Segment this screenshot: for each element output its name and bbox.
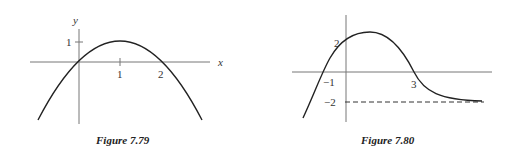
figure-7-80: 2 −1 3 −2 Figure 7.80 [292,15,492,146]
y-axis-label: y [72,14,78,26]
figures-canvas: y x 1 1 2 Figure 7.79 2 −1 3 −2 Figure 7… [0,0,518,150]
x-tick-label-neg1: −1 [323,76,335,88]
figure-caption: Figure 7.79 [95,134,150,146]
x-tick-label-3: 3 [411,78,417,90]
y-tick-label-2: 2 [334,37,340,49]
figure-caption: Figure 7.80 [360,134,415,146]
x-axis-label: x [217,56,223,68]
y-tick-label-1: 1 [66,36,72,48]
parabola-curve [38,41,202,120]
x-tick-label-2: 2 [158,68,164,80]
figure-7-79: y x 1 1 2 Figure 7.79 [30,14,223,146]
x-tick-label-1: 1 [117,68,123,80]
y-tick-label-neg2: −2 [324,96,336,108]
